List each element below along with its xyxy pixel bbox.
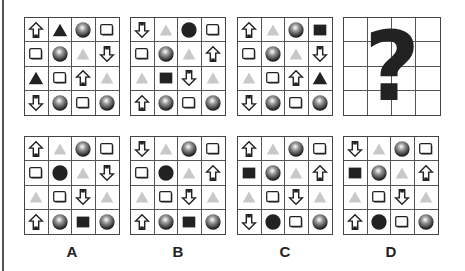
sphere-icon — [417, 213, 435, 231]
grid-cell — [49, 67, 73, 91]
grid-cell — [72, 137, 96, 161]
box-icon — [74, 94, 92, 112]
option-grid-b[interactable] — [130, 136, 226, 235]
up-arrow-icon — [133, 213, 151, 231]
down-arrow-icon — [287, 188, 305, 206]
grid-cell — [49, 91, 73, 115]
grid-cell — [309, 91, 333, 115]
grid-cell — [344, 186, 368, 210]
sphere-icon — [98, 94, 116, 112]
question-grid-2 — [130, 17, 226, 116]
down-arrow-icon — [311, 45, 329, 63]
sphere-icon — [264, 94, 282, 112]
grid-cell — [25, 137, 49, 161]
grey-triangle-icon — [311, 188, 329, 206]
box-icon — [264, 69, 282, 87]
grid-cell — [178, 210, 202, 234]
grid-cell — [96, 210, 120, 234]
grid-cell — [238, 161, 262, 185]
grid-cell — [25, 67, 49, 91]
grid-cell — [368, 137, 392, 161]
black-square-icon — [240, 164, 258, 182]
sphere-icon — [157, 94, 175, 112]
missing-grid: ? — [343, 17, 441, 116]
box-icon — [157, 188, 175, 206]
grid-cell — [309, 137, 333, 161]
grey-triangle-icon — [417, 188, 435, 206]
grid-cell — [285, 210, 309, 234]
grid-cell — [415, 137, 439, 161]
grid-cell — [49, 186, 73, 210]
black-triangle-icon — [51, 21, 69, 39]
sphere-icon — [264, 164, 282, 182]
grid-cell — [285, 137, 309, 161]
black-circle-icon — [157, 164, 175, 182]
grid-cell — [262, 91, 286, 115]
up-arrow-icon — [287, 69, 305, 87]
down-arrow-icon — [27, 94, 45, 112]
up-arrow-icon — [133, 94, 151, 112]
grey-triangle-icon — [264, 140, 282, 158]
black-circle-icon — [264, 213, 282, 231]
grid-cell — [285, 42, 309, 66]
box-icon — [27, 164, 45, 182]
grid-cell — [238, 137, 262, 161]
sphere-icon — [74, 21, 92, 39]
question-mark-icon: ? — [344, 18, 440, 115]
box-icon — [27, 45, 45, 63]
black-circle-icon — [180, 21, 198, 39]
grid-cell — [309, 67, 333, 91]
grid-cell — [131, 67, 155, 91]
grid-cell — [309, 186, 333, 210]
grid-cell — [131, 161, 155, 185]
grid-cell — [131, 18, 155, 42]
grey-triangle-icon — [393, 164, 411, 182]
option-grid-c[interactable] — [237, 136, 333, 235]
grey-triangle-icon — [157, 21, 175, 39]
down-arrow-icon — [240, 213, 258, 231]
grid-cell — [238, 67, 262, 91]
grid-cell — [391, 161, 415, 185]
black-circle-icon — [370, 213, 388, 231]
option-grid-d[interactable] — [343, 136, 439, 235]
grid-cell — [155, 67, 179, 91]
sphere-icon — [51, 45, 69, 63]
up-arrow-icon — [204, 45, 222, 63]
grid-cell — [285, 67, 309, 91]
option-label-a[interactable]: A — [24, 243, 120, 260]
grid-cell — [178, 91, 202, 115]
grey-triangle-icon — [240, 69, 258, 87]
sphere-icon — [264, 45, 282, 63]
grid-cell — [202, 18, 226, 42]
grid-cell — [72, 186, 96, 210]
sphere-icon — [287, 140, 305, 158]
option-label-c[interactable]: C — [237, 243, 333, 260]
grid-cell — [309, 210, 333, 234]
up-arrow-icon — [27, 140, 45, 158]
down-arrow-icon — [98, 45, 116, 63]
grid-cell — [262, 42, 286, 66]
grid-cell — [415, 161, 439, 185]
grid-cell — [49, 210, 73, 234]
grid-cell — [25, 18, 49, 42]
box-icon — [133, 164, 151, 182]
grid-cell — [96, 18, 120, 42]
grid-cell — [285, 18, 309, 42]
sphere-icon — [311, 94, 329, 112]
up-arrow-icon — [240, 140, 258, 158]
grid-cell — [202, 137, 226, 161]
down-arrow-icon — [240, 94, 258, 112]
grey-triangle-icon — [27, 188, 45, 206]
grid-cell — [49, 161, 73, 185]
grid-cell — [309, 42, 333, 66]
down-arrow-icon — [180, 188, 198, 206]
grey-triangle-icon — [370, 140, 388, 158]
option-label-b[interactable]: B — [130, 243, 226, 260]
grid-cell — [391, 186, 415, 210]
up-arrow-icon — [27, 213, 45, 231]
option-grid-a[interactable] — [24, 136, 120, 235]
option-label-d[interactable]: D — [343, 243, 439, 260]
grid-cell — [49, 42, 73, 66]
grid-cell — [155, 161, 179, 185]
sphere-icon — [51, 213, 69, 231]
